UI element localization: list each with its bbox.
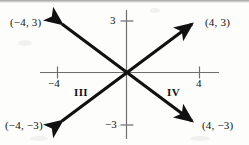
y-axis-tick-label-3: 3 [110, 15, 116, 26]
quadrant-label-four: IV [167, 87, 180, 98]
point-label-bottom-left: (−4, −3) [5, 120, 43, 131]
x-axis-tick-label-4: 4 [196, 78, 202, 89]
y-axis-tick-label-negative-3: −3 [105, 119, 117, 130]
point-label-bottom-right: (4, −3) [202, 120, 233, 131]
point-label-top-right: (4, 3) [205, 17, 230, 28]
coordinate-plane-figure: (−4, 3) (4, 3) (−4, −3) (4, −3) 3 −3 −4 … [0, 0, 249, 145]
x-axis-tick-label-negative-4: −4 [48, 78, 60, 89]
point-label-top-left: (−4, 3) [10, 17, 41, 28]
quadrant-label-three: III [74, 87, 88, 98]
